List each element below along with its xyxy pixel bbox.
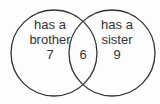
brother-label-line1: has a (34, 17, 67, 32)
brother-label-line2: brother (29, 32, 71, 47)
venn-svg: has a brother 7 6 has a sister 9 (0, 0, 160, 104)
brother-only-count: 7 (46, 47, 53, 62)
sister-label-line2: sister (101, 32, 133, 47)
venn-diagram: has a brother 7 6 has a sister 9 (0, 0, 160, 104)
sister-label-line1: has a (101, 17, 134, 32)
intersection-count: 6 (79, 47, 86, 62)
sister-only-count: 9 (113, 47, 120, 62)
